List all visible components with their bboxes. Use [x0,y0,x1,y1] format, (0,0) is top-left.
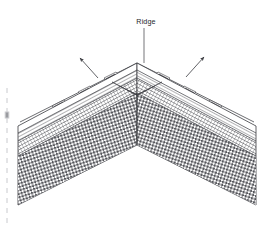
roof-ridge-figure: Ridge [0,0,266,235]
ridge-label: Ridge [136,17,155,26]
roof-ridge-drawing: Ridge [0,0,266,235]
